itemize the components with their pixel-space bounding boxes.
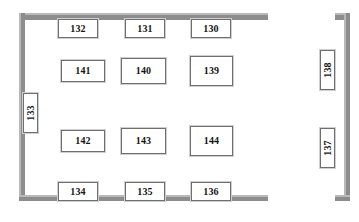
booth-143[interactable]: 143 xyxy=(121,128,166,154)
booth-137-label: 137 xyxy=(323,140,333,156)
booth-140[interactable]: 140 xyxy=(121,58,166,84)
corridor-bottom-stub-highlight xyxy=(335,195,350,197)
booth-140-label: 140 xyxy=(136,66,152,76)
booth-144[interactable]: 144 xyxy=(190,126,233,156)
floor-plan: 1321311301411401391421431441341351361331… xyxy=(0,0,359,222)
booth-136-label: 136 xyxy=(203,187,219,197)
booth-139[interactable]: 139 xyxy=(190,56,233,86)
booth-141-label: 141 xyxy=(75,66,91,76)
booth-138-label: 138 xyxy=(323,62,333,78)
booth-132-label: 132 xyxy=(70,24,86,34)
corridor-right-wall-highlight xyxy=(344,13,346,201)
main-room-left-wall-highlight xyxy=(19,13,21,201)
booth-134-label: 134 xyxy=(70,187,86,197)
booth-144-label: 144 xyxy=(204,136,220,146)
booth-130[interactable]: 130 xyxy=(191,19,231,38)
booth-131-label: 131 xyxy=(137,24,153,34)
booth-137[interactable]: 137 xyxy=(320,128,335,168)
booth-138[interactable]: 138 xyxy=(320,50,335,90)
booth-139-label: 139 xyxy=(204,66,220,76)
booth-143-label: 143 xyxy=(136,136,152,146)
booth-141[interactable]: 141 xyxy=(61,60,105,82)
booth-142-label: 142 xyxy=(75,136,91,146)
booth-133-label: 133 xyxy=(26,105,36,121)
booth-136[interactable]: 136 xyxy=(191,182,231,201)
booth-142[interactable]: 142 xyxy=(61,130,105,152)
booth-135-label: 135 xyxy=(137,187,153,197)
booth-135[interactable]: 135 xyxy=(125,182,165,201)
main-room-top-wall-highlight xyxy=(19,13,268,15)
booth-134[interactable]: 134 xyxy=(58,182,98,201)
booth-133[interactable]: 133 xyxy=(23,93,38,133)
booth-131[interactable]: 131 xyxy=(125,19,165,38)
booth-132[interactable]: 132 xyxy=(58,19,98,38)
booth-130-label: 130 xyxy=(203,24,219,34)
